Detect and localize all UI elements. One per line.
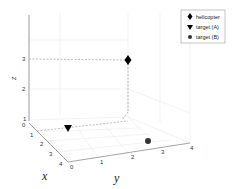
projection-lines: [29, 59, 128, 131]
z-axis-label: z: [8, 76, 18, 81]
z-ticks: 3 2 1: [22, 56, 27, 122]
y-tick-1: 1: [100, 159, 104, 165]
x-ticks: 0 1 2 3 4: [22, 122, 63, 167]
x-axis-label: x: [41, 169, 48, 183]
z-tick-3: 3: [22, 56, 26, 62]
helicopter-marker: [125, 55, 132, 65]
x-tick-2: 2: [40, 141, 44, 147]
y-axis-line: [68, 143, 190, 162]
x-tick-3: 3: [49, 151, 53, 157]
y-tick-0: 0: [70, 164, 74, 170]
legend-item-target-b: target (B): [196, 34, 219, 40]
target-b-marker: [145, 138, 151, 144]
legend-item-helicopter: helicopter: [196, 14, 220, 20]
y-tick-2: 2: [131, 154, 135, 160]
y-tick-3: 3: [161, 149, 165, 155]
x-tick-0: 0: [22, 122, 26, 128]
x-tick-1: 1: [30, 132, 34, 138]
axes: [29, 15, 190, 162]
legend-item-target-a: target (A): [196, 24, 219, 30]
z-tick-2: 2: [22, 86, 26, 92]
legend-circle-icon: [188, 35, 192, 39]
3d-scatter-plot: 3 2 1 0 1 2 3 4 0 1 2 3 4 x y z helicopt…: [0, 0, 241, 189]
legend: helicopter target (A) target (B): [181, 10, 225, 43]
grid-lines: [29, 12, 190, 157]
x-tick-4: 4: [59, 161, 63, 167]
y-tick-4: 4: [190, 145, 194, 151]
y-axis-label: y: [113, 171, 120, 185]
